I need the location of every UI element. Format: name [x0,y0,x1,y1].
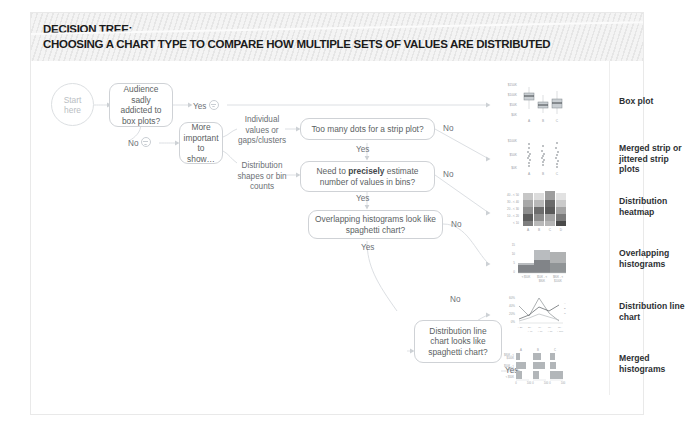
svg-text:$50K - <: $50K - < [537,275,548,279]
right-column-divider [609,61,610,395]
node-precise-bins[interactable]: Need to precisely estimate number of val… [300,161,435,192]
node-audience-box-plots[interactable]: Audience sadly addicted to box plots? [109,83,173,127]
node-overlap-spaghetti-label: Overlapping histograms look like spaghet… [314,214,437,235]
page-title-line1: DECISION TREE: [43,23,132,35]
node-line-spaghetti[interactable]: Distribution line chart looks like spagh… [414,320,502,363]
svg-text:C: C [556,172,559,176]
svg-text:A: A [528,119,531,123]
happy-face-icon [141,137,151,147]
svg-text:100: 100 [561,381,566,385]
svg-text:$0K: $0K [511,113,518,117]
node-more-important[interactable]: More important to show… [179,122,223,164]
branch-label-distribution-shapes: Distribution shapes or bin counts [237,161,287,193]
edge-label-no-too-many-dots: No [443,124,453,134]
edge-label-no-text: No [128,139,138,148]
svg-text:20 - < 30: 20 - < 30 [507,207,519,211]
svg-text:$100K: $100K [506,356,514,360]
edge-label-yes-box-plots: Yes [193,100,219,112]
svg-text:$100K: $100K [508,139,518,143]
edge-label-no-precise-bins: No [443,170,453,180]
svg-text:C: C [549,228,552,232]
svg-text:15: 15 [512,243,516,247]
svg-text:10 - < 20: 10 - < 20 [507,214,519,218]
decision-tree-canvas: Start here Audience sadly addicted to bo… [31,61,643,414]
svg-text:A: A [520,348,522,352]
svg-text:0%: 0% [511,320,516,324]
outcome-label-merged-histograms: Merged histograms [619,353,689,374]
svg-text:0: 0 [515,381,517,385]
thumbnail-overlapping-histograms: 15 10 5 0 < $50K $50K - <$80K [493,241,571,285]
node-too-many-dots-label: Too many dots for a strip plot? [311,124,423,135]
node-precise-bins-label: Need to precisely estimate number of val… [306,166,429,187]
slide-canvas: DECISION TREE: CHOOSING A CHART TYPE TO … [31,13,643,414]
svg-text:A: A [528,172,531,176]
branch-label-individual-values: Individual values or gaps/clusters [237,115,287,147]
svg-text:$100K: $100K [554,279,562,283]
svg-text:20%: 20% [509,312,515,316]
node-too-many-dots[interactable]: Too many dots for a strip plot? [300,118,435,140]
start-node[interactable]: Start here [51,83,94,126]
svg-text:< 100: < 100 [557,330,564,333]
svg-text:A: A [527,228,530,232]
svg-text:B: B [542,119,544,123]
svg-text:100: 100 [544,381,549,385]
svg-text:< $50K: < $50K [506,375,515,379]
edge-label-no-box-plots: No [128,137,151,149]
node-more-important-label: More important to show… [184,122,219,164]
edge-label-yes-overlap-spaghetti: Yes [361,243,374,253]
thumbnail-box-plot: $150K $100K $50K $0K [493,81,571,125]
edge-label-no-line-spaghetti: No [450,295,460,305]
edge-label-yes-precise-bins: Yes [356,194,369,204]
svg-text:30 - < 40: 30 - < 40 [507,200,519,204]
node-precise-bins-bold: precisely [348,166,384,176]
svg-text:C: C [556,119,559,123]
svg-text:C: C [564,312,566,315]
start-label-line1: Start [64,95,82,105]
outcome-label-merged-strip: Merged strip or jittered strip plots [619,143,689,175]
svg-text:< 10: < 10 [513,221,519,225]
svg-text:$0K: $0K [511,166,518,170]
svg-text:0: 0 [532,381,534,385]
svg-text:$150K: $150K [508,83,518,87]
node-precise-bins-pre: Need to [317,166,349,176]
svg-text:$80K: $80K [539,279,545,283]
slide-header: DECISION TREE: CHOOSING A CHART TYPE TO … [31,13,643,62]
edge-label-yes-too-many-dots: Yes [356,145,369,155]
svg-text:60%: 60% [509,296,515,300]
outcome-label-distribution-line-chart: Distribution line chart [619,301,689,322]
svg-text:$80K - <: $80K - < [553,275,564,279]
thumbnail-distribution-line-chart: 60% 40% 20% 0% < 20 20 -< 40 40 -< 60 60… [493,294,571,338]
svg-text:< 40: < 40 [528,330,533,333]
start-label-line2: here [64,105,82,115]
svg-text:5: 5 [513,261,515,265]
page-title-line2: CHOOSING A CHART TYPE TO COMPARE HOW MUL… [43,38,550,50]
svg-text:B: B [564,307,566,310]
svg-text:< 80: < 80 [548,330,553,333]
node-overlap-spaghetti[interactable]: Overlapping histograms look like spaghet… [308,210,443,239]
svg-text:$50K: $50K [510,153,518,157]
svg-text:A: A [564,302,566,305]
node-audience-box-plots-label: Audience sadly addicted to box plots? [115,84,167,126]
edge-label-no-overlap-spaghetti: No [451,220,461,230]
svg-text:< 60: < 60 [538,330,543,333]
svg-text:40%: 40% [509,304,515,308]
svg-text:10: 10 [512,252,516,256]
outcome-label-distribution-heatmap: Distribution heatmap [619,196,689,217]
svg-text:C: C [554,348,556,352]
svg-text:< $50K: < $50K [522,275,531,279]
outcome-label-box-plot: Box plot [619,96,689,107]
svg-text:0: 0 [549,381,551,385]
thumbnail-merged-strip: $100K $50K $0K ABC [493,135,571,179]
svg-text:D: D [560,228,563,232]
svg-text:40 - < 50: 40 - < 50 [507,193,519,197]
svg-text:0: 0 [513,270,515,274]
svg-text:100: 100 [527,381,532,385]
thumbnail-distribution-heatmap: 40 - < 50 30 - < 40 20 - < 30 10 - < 20 … [493,189,571,233]
svg-text:B: B [538,228,540,232]
outcome-label-overlapping-histograms: Overlapping histograms [619,248,689,269]
node-line-spaghetti-label: Distribution line chart looks like spagh… [420,326,496,358]
svg-text:B: B [542,172,544,176]
svg-text:$50K: $50K [510,103,518,107]
svg-text:$100K: $100K [508,93,518,97]
svg-text:$80K: $80K [508,367,514,371]
